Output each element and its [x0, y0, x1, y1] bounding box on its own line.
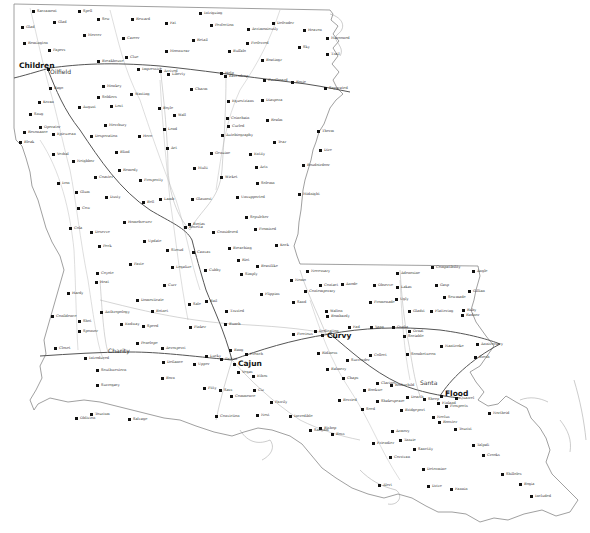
city-label: Ruby — [467, 308, 476, 312]
city-label: Prospects — [450, 404, 468, 408]
city-dot-icon — [376, 400, 379, 403]
city-label: Rosetta — [189, 225, 203, 229]
city-label: Nanticoke — [445, 344, 464, 348]
city-dot-icon — [131, 18, 134, 21]
city-label: Sanctity — [418, 447, 433, 451]
city-label: Sew — [102, 17, 110, 21]
city-label: Dedication — [319, 329, 339, 333]
city-label: Penelope — [141, 341, 158, 345]
city-label: Mercer — [88, 33, 101, 37]
city-label: Bombardy — [331, 314, 350, 318]
city-dot-icon — [75, 191, 78, 194]
city-label: Lakas — [401, 285, 412, 289]
city-label: Promenade — [374, 300, 395, 304]
city-label: Determine — [427, 467, 446, 471]
city-label: Domesticate — [141, 298, 164, 302]
city-label: Bago — [54, 86, 63, 90]
city-label: Ethos — [257, 374, 267, 378]
city-label: Cardboard — [268, 78, 288, 82]
city-dot-icon — [192, 39, 195, 42]
city-dot-icon — [158, 107, 161, 110]
city-dot-icon — [461, 314, 464, 317]
map-canvas[interactable]: Children Curvy Cajun Flood Oilfield Char… — [0, 0, 590, 533]
city-dot-icon — [289, 415, 292, 418]
city-dot-icon — [167, 73, 170, 76]
city-dot-icon — [137, 68, 140, 71]
city-dot-icon — [341, 283, 344, 286]
city-dot-icon — [378, 484, 381, 487]
city-dot-icon — [212, 231, 215, 234]
city-dot-icon — [21, 26, 24, 29]
city-label: Hero — [143, 134, 152, 138]
city-dot-icon — [314, 330, 317, 333]
city-label: Curr — [168, 283, 177, 287]
city-dot-icon — [19, 141, 22, 144]
city-dot-icon — [488, 412, 491, 415]
city-dot-icon — [233, 363, 236, 366]
city-label: Chaps — [347, 376, 358, 380]
city-label: Surrogacy — [101, 383, 120, 387]
city-label: Entity — [254, 152, 265, 156]
city-label: Angle — [477, 269, 488, 273]
city-dot-icon — [399, 439, 402, 442]
city-label: Anniversary — [481, 342, 503, 346]
city-label: Kock — [280, 243, 289, 247]
city-dot-icon — [392, 326, 395, 329]
city-dot-icon — [120, 323, 123, 326]
city-label: Bogia — [524, 482, 534, 486]
city-label: Wasting — [135, 92, 150, 96]
city-label: Remedy — [123, 168, 138, 172]
city-dot-icon — [450, 488, 453, 491]
city-label: Contemporary — [309, 289, 335, 293]
city-dot-icon — [472, 444, 475, 447]
rivers — [30, 8, 410, 480]
city-dot-icon — [249, 153, 252, 156]
city-label: Perfection — [215, 23, 234, 27]
city-label: Legalize — [176, 265, 191, 269]
city-label: Riot — [242, 258, 249, 262]
city-dot-icon — [67, 292, 70, 295]
city-label: Pitty — [208, 386, 217, 390]
city-dot-icon — [190, 88, 193, 91]
city-dot-icon — [228, 50, 231, 53]
city-dot-icon — [443, 296, 446, 299]
city-dot-icon — [48, 49, 51, 52]
city-label: Compatibility — [436, 265, 461, 269]
city-label: Paste — [134, 262, 144, 266]
city-label: Realm — [271, 118, 283, 122]
city-dot-icon — [438, 421, 441, 424]
city-dot-icon — [236, 196, 239, 199]
city-dot-icon — [166, 147, 169, 150]
city-dot-icon — [100, 311, 103, 314]
city-dot-icon — [128, 418, 131, 421]
city-label: Rosie — [296, 80, 306, 84]
city-label: Trusted — [230, 309, 244, 313]
city-label: Botnet — [156, 309, 168, 313]
city-label: Act — [171, 146, 177, 150]
city-dot-icon — [32, 10, 35, 13]
city-dot-icon — [123, 221, 126, 224]
city-dot-icon — [221, 134, 224, 137]
city-dot-icon — [78, 106, 81, 109]
city-dot-icon — [143, 240, 146, 243]
city-dot-icon — [230, 395, 233, 398]
city-label: Ugly — [400, 297, 409, 301]
city-dot-icon — [389, 456, 392, 459]
city-label: Oilfield — [50, 68, 71, 75]
city-label: Tanzie — [404, 438, 416, 442]
city-dot-icon — [326, 53, 329, 56]
city-dot-icon — [225, 310, 228, 313]
city-label: Considered — [217, 230, 238, 234]
city-label: Genuine — [215, 151, 230, 155]
city-dot-icon — [408, 310, 411, 313]
city-label: Dearth — [411, 395, 424, 399]
city-label: Blind — [120, 150, 130, 154]
city-label: Sale — [193, 302, 201, 306]
city-label: Epicurean — [57, 132, 76, 136]
city-dot-icon — [406, 396, 409, 399]
city-dot-icon — [400, 409, 403, 412]
city-dot-icon — [408, 330, 411, 333]
city-label: Osaka — [397, 325, 408, 329]
city-label: Spell — [83, 9, 92, 13]
city-dot-icon — [476, 343, 479, 346]
